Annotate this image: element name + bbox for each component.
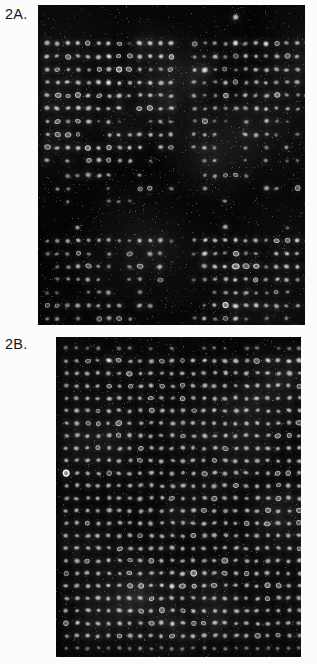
panel-label-2b: 2B. (5, 336, 27, 352)
microarray-image-2b (56, 337, 301, 657)
microarray-panel-2a (38, 5, 305, 325)
microarray-image-2a (38, 5, 305, 325)
panel-label-2a: 2A. (5, 6, 27, 22)
microarray-panel-2b (56, 337, 301, 657)
figure-container: 2A. 2B. (0, 0, 317, 664)
